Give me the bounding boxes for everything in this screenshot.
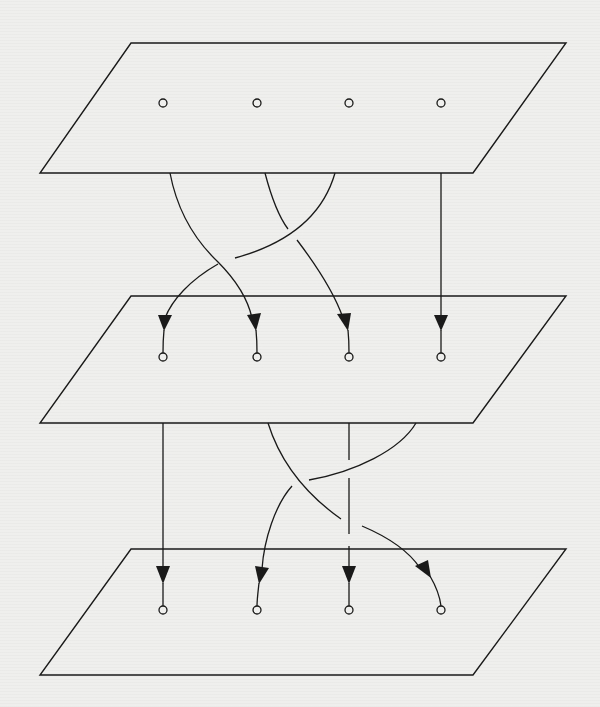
plane-3-points — [159, 606, 445, 614]
upper-strand-3b — [165, 264, 218, 318]
point-icon — [253, 353, 261, 361]
lower-strand-4a — [309, 423, 416, 480]
upper-strand-1-tail — [256, 330, 257, 353]
arrowhead-icon — [158, 315, 172, 331]
plane-1-parallelogram — [40, 43, 566, 173]
point-icon — [159, 353, 167, 361]
lower-strand-4-tail — [257, 583, 259, 606]
plane-3-parallelogram — [40, 549, 566, 675]
upper-strand-2a — [265, 173, 288, 229]
arrowhead-icon — [247, 313, 261, 331]
point-icon — [253, 606, 261, 614]
upper-strand-3a — [235, 173, 335, 258]
lower-strand-2-tail — [430, 576, 441, 606]
point-icon — [345, 606, 353, 614]
plane-2-parallelogram — [40, 296, 566, 423]
point-icon — [253, 99, 261, 107]
plane-2-points — [159, 353, 445, 361]
arrowhead-icon — [342, 566, 356, 584]
point-icon — [437, 353, 445, 361]
point-icon — [159, 606, 167, 614]
point-icon — [437, 99, 445, 107]
lower-braid — [156, 423, 441, 606]
point-icon — [345, 353, 353, 361]
braid-diagram — [0, 0, 600, 707]
arrowhead-icon — [415, 560, 431, 578]
upper-braid — [158, 173, 448, 353]
arrowhead-icon — [434, 315, 448, 331]
point-icon — [159, 99, 167, 107]
point-icon — [345, 99, 353, 107]
lower-strand-2b — [362, 526, 420, 568]
arrowhead-icon — [337, 313, 351, 331]
upper-strand-2-tail — [348, 330, 349, 353]
arrowhead-icon — [156, 566, 170, 584]
point-icon — [437, 606, 445, 614]
lower-strand-4b — [262, 486, 292, 569]
upper-strand-3-tail — [163, 330, 164, 353]
arrowhead-icon — [255, 566, 269, 584]
plane-1-points — [159, 99, 445, 107]
upper-strand-2b — [297, 240, 343, 318]
